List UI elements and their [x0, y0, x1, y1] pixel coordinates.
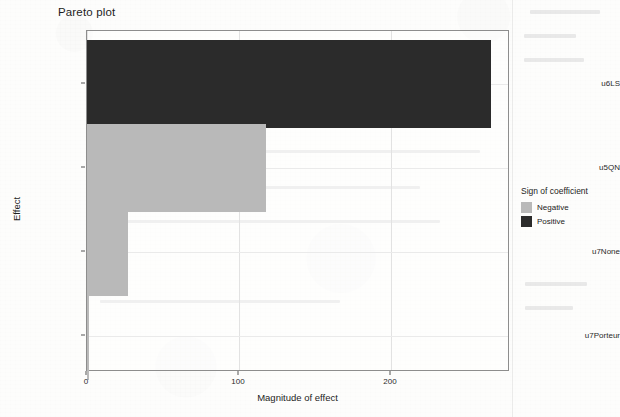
y-tick-label-0: u6LS: [548, 79, 620, 88]
pareto-plot-chart: Pareto plot Effect u6LS u5QN u7None u7Po…: [0, 0, 620, 417]
legend: Sign of coefficient Negative Positive: [521, 186, 588, 229]
y-tick-label-3: u7Porteur: [548, 331, 620, 340]
y-tick-mark-3: [81, 335, 85, 336]
x-axis-title: Magnitude of effect: [86, 392, 509, 403]
legend-title: Sign of coefficient: [521, 186, 588, 196]
y-tick-mark-0: [81, 83, 85, 84]
legend-label-positive: Positive: [537, 217, 565, 226]
gridline-y-3: [87, 336, 508, 337]
legend-swatch-negative-icon: [521, 202, 532, 213]
plot-panel: [86, 30, 509, 371]
y-axis-title: Effect: [11, 196, 22, 220]
legend-swatch-positive-icon: [521, 216, 532, 227]
x-tick-label-1: 100: [231, 377, 244, 386]
x-tick-label-2: 200: [383, 377, 396, 386]
legend-item-negative[interactable]: Negative: [521, 201, 588, 214]
x-tick-mark-2: [390, 371, 391, 375]
x-tick-label-0: 0: [84, 377, 88, 386]
bar-u6LS[interactable]: [87, 40, 491, 128]
y-tick-mark-1: [81, 167, 85, 168]
bar-u7None[interactable]: [87, 208, 128, 296]
y-tick-mark-2: [81, 251, 85, 252]
x-tick-mark-0: [86, 371, 87, 375]
y-tick-label-2: u7None: [548, 247, 620, 256]
legend-item-positive[interactable]: Positive: [521, 215, 588, 228]
legend-label-negative: Negative: [537, 203, 569, 212]
x-tick-mark-1: [238, 371, 239, 375]
gridline-y-2: [87, 252, 508, 253]
bar-u5QN[interactable]: [87, 124, 266, 212]
bar-u7Porteur[interactable]: [87, 292, 89, 380]
chart-title: Pareto plot: [58, 6, 115, 18]
y-tick-label-1: u5QN: [548, 163, 620, 172]
